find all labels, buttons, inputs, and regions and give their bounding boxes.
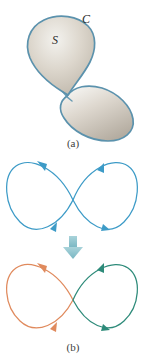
down-arrow-icon [63,236,83,259]
surface-label: S [52,33,58,47]
arrowhead-right-1 [97,263,104,273]
arrowhead-combined-1 [37,161,47,171]
loop-left-orange [7,265,73,328]
panel-a: S C (a) [28,12,134,150]
combined-right-loop [73,163,137,230]
curve-label: C [82,12,91,26]
caption-b: (b) [67,341,80,354]
surface-upper-lobe [28,16,95,95]
figure-container: S C (a) [0,0,146,361]
loop-right-teal [73,265,137,328]
arrowhead-left-1 [37,263,47,273]
figure-eight-split [7,263,138,332]
figure-svg: S C (a) [0,0,146,361]
surface-lower-lobe [60,86,133,141]
panel-b: (b) [7,161,138,354]
combined-left-loop [7,163,73,230]
arrowhead-combined-4 [101,224,110,231]
figure-eight-combined [7,161,138,232]
caption-a: (a) [67,137,80,150]
